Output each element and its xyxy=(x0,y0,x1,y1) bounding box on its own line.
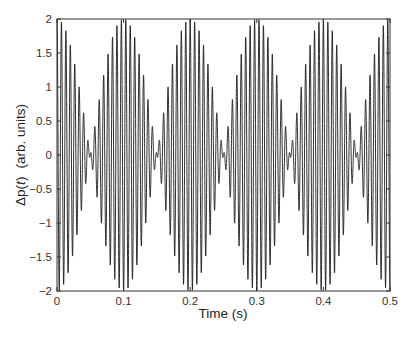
y-axis-label-units: (arb. units) xyxy=(13,104,28,169)
y-tick-label: 0 xyxy=(46,149,52,161)
x-axis-label: Time (s) xyxy=(199,306,248,321)
x-tick-label: 0.2 xyxy=(182,295,198,307)
x-tick-label: 0.1 xyxy=(116,295,132,307)
y-axis-label: Δp(t)(arb. units) xyxy=(13,104,28,206)
y-tick-label: 0.5 xyxy=(36,115,52,127)
y-tick-label: 1 xyxy=(46,81,52,93)
y-tick-label: −2 xyxy=(39,285,52,297)
y-tick-label: 2 xyxy=(46,13,52,25)
x-tick-label: 0.4 xyxy=(315,295,332,307)
x-tick-label: 0 xyxy=(54,295,60,307)
y-tick-label: −0.5 xyxy=(29,183,52,195)
y-tick-label: −1 xyxy=(39,217,52,229)
plot-area xyxy=(57,19,390,291)
y-tick-labels: 21.510.50−0.5−1−1.5−2 xyxy=(29,13,52,297)
beat-waveform-chart: 00.10.20.30.40.5 21.510.50−0.5−1−1.5−2 T… xyxy=(0,0,413,337)
y-axis-label-quantity: Δp( xyxy=(13,184,28,206)
y-tick-label: −1.5 xyxy=(29,251,52,263)
x-tick-label: 0.5 xyxy=(382,295,398,307)
x-tick-label: 0.3 xyxy=(249,295,265,307)
waveform-line xyxy=(57,19,390,291)
y-tick-label: 1.5 xyxy=(36,47,52,59)
y-axis-label-close: ) xyxy=(13,177,28,182)
